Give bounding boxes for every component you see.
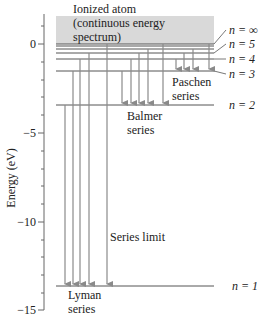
continuum-label-line2: (continuous energy	[73, 16, 165, 30]
axis-title: Energy (eV)	[4, 148, 18, 207]
balmer-label-line2: series	[127, 123, 155, 137]
energy-level-diagram: 0 −5 −10 −15 Energy (eV) Ionized atom (c…	[0, 0, 269, 319]
tick-label-minus5: −5	[23, 126, 36, 140]
level-label-n-4: n = 4	[229, 52, 255, 66]
tick-label-minus15: −15	[17, 303, 36, 317]
level-label-n-1: n = 1	[232, 279, 258, 293]
tick-label-minus10: −10	[17, 215, 36, 229]
energy-axis	[38, 14, 44, 310]
continuum-label-line3: spectrum)	[73, 30, 121, 44]
level-label-n-2: n = 2	[229, 98, 255, 112]
paschen-label-line1: Paschen	[172, 75, 211, 89]
paschen-label-line2: series	[172, 89, 200, 103]
level-label-n-infinity: n = ∞	[229, 23, 258, 37]
continuum-label-line1: Ionized atom	[73, 2, 137, 16]
level-leader-lines	[214, 30, 226, 74]
paschen-series-arrows	[176, 44, 209, 69]
lyman-series-arrows	[65, 44, 107, 284]
lyman-label-line2: series	[68, 302, 96, 316]
level-label-n-3: n = 3	[229, 67, 255, 81]
level-label-n-5: n = 5	[229, 37, 255, 51]
series-limit-label: Series limit	[110, 230, 166, 244]
lyman-label-line1: Lyman	[68, 288, 101, 302]
balmer-label-line1: Balmer	[127, 109, 162, 123]
tick-label-0: 0	[30, 37, 36, 51]
